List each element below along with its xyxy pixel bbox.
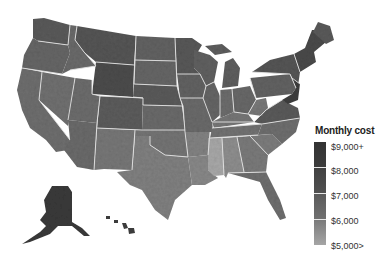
state-arizona	[64, 120, 97, 170]
state-north-dakota	[135, 36, 176, 61]
state-new-mexico	[94, 128, 135, 170]
legend-label-8000: $8,000	[331, 166, 359, 176]
legend-title: Monthly cost	[315, 125, 374, 136]
legend-segment-6000	[314, 220, 326, 245]
legend-segment-8000	[314, 168, 326, 194]
state-hawaii	[106, 216, 135, 234]
legend-color-scale	[314, 142, 326, 244]
state-mississippi	[208, 138, 224, 176]
legend-label-6000: $6,000	[331, 216, 359, 226]
state-colorado	[97, 96, 143, 130]
state-south-dakota	[134, 60, 177, 86]
state-wyoming	[92, 62, 134, 97]
legend-label-7000: $7,000	[331, 191, 359, 201]
legend-segment-9000	[314, 142, 326, 168]
state-alaska	[22, 186, 90, 244]
legend-segment-7000	[314, 194, 326, 220]
legend-label-5000: $5,000>	[331, 241, 364, 251]
state-florida	[228, 172, 286, 220]
legend: Monthly cost $9,000+ $8,000 $7,000 $6,00…	[312, 122, 392, 262]
legend-label-9000: $9,000+	[331, 142, 364, 152]
state-kansas	[142, 105, 185, 130]
state-pennsylvania	[250, 74, 296, 98]
state-arkansas	[185, 132, 210, 157]
